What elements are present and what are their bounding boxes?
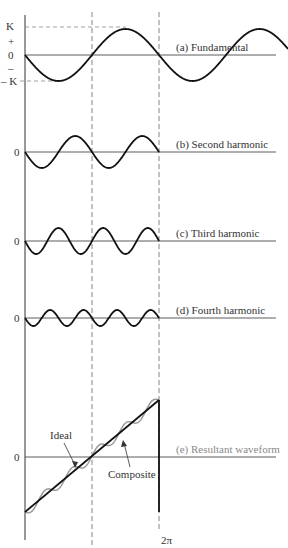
zero-label-a: 0: [8, 49, 14, 61]
composite-arrowhead: [121, 440, 127, 447]
label-resultant-waveform: (e) Resultant waveform: [176, 443, 280, 456]
composite-arrow: [124, 443, 130, 467]
label-fourth-harmonic: (d) Fourth harmonic: [176, 304, 265, 317]
fourier-diagram: K + 0 – – K 0 0 0 0 2π (a) Fundamental (…: [0, 0, 288, 548]
composite-label: Composite: [108, 468, 156, 480]
k-label: K: [6, 20, 14, 32]
label-fundamental: (a) Fundamental: [176, 41, 248, 54]
zero-label-b: 0: [14, 146, 20, 158]
minus-label: –: [7, 62, 14, 74]
two-pi-label: 2π: [161, 534, 173, 546]
zero-label-e: 0: [14, 451, 20, 463]
zero-label-c: 0: [14, 235, 20, 247]
ideal-label: Ideal: [50, 429, 72, 441]
zero-label-d: 0: [14, 312, 20, 324]
label-second-harmonic: (b) Second harmonic: [176, 138, 268, 151]
label-third-harmonic: (c) Third harmonic: [176, 227, 260, 240]
plus-label: +: [8, 35, 14, 47]
neg-k-label: – K: [0, 75, 17, 87]
